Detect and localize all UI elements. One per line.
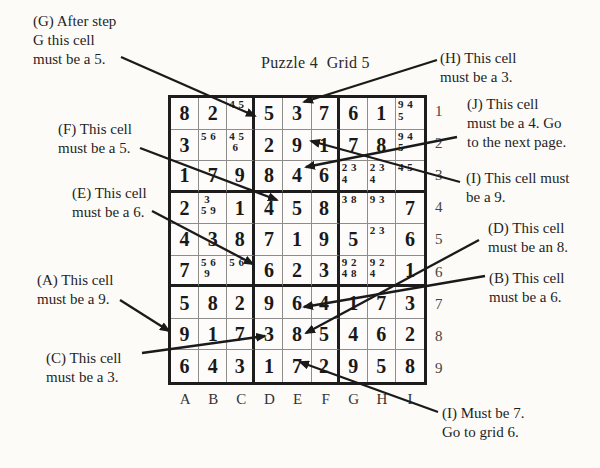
cell-D1: 5 (255, 98, 283, 130)
callout-text-line: (G) After step (33, 12, 116, 31)
callout-text-line: must be a 5. (33, 50, 116, 69)
cell-I8: 2 (396, 319, 424, 351)
cell-E2: 9 (283, 130, 311, 162)
cell-A9: 6 (171, 350, 199, 382)
cell-value: 5 (319, 324, 329, 344)
cell-value: 1 (319, 135, 329, 155)
cell-B1: 2 (199, 98, 227, 130)
cell-D8: 3 (255, 319, 283, 351)
column-label-A: A (171, 391, 199, 409)
cell-value: 2 (319, 356, 329, 376)
callout-b: (B) This cell must be a 6. (489, 269, 565, 307)
cell-value: 3 (180, 135, 190, 155)
cell-value: 7 (292, 356, 302, 376)
row-labels: 123456789 (435, 95, 455, 385)
puzzle-title: Puzzle 4 Grid 5 (261, 54, 370, 72)
callout-text-line: (D) This cell (488, 219, 568, 238)
cell-A8: 9 (171, 319, 199, 351)
cell-A3: 1 (171, 161, 199, 193)
cell-B3: 7 (199, 161, 227, 193)
cell-value: 2 (292, 260, 302, 280)
cell-G7: 1 (340, 287, 368, 319)
callout-i-cell: (I) This cell must be a 9. (466, 169, 569, 207)
cell-value: 8 (376, 135, 386, 155)
cell-C2: 4 5 6 (227, 130, 255, 162)
cell-value: 2 (180, 198, 190, 218)
cell-value: 8 (264, 165, 274, 185)
cell-G5: 5 (340, 224, 368, 256)
callout-text-line: (I) This cell must (466, 169, 569, 188)
row-label-9: 9 (435, 353, 455, 385)
cell-F7: 4 (312, 287, 340, 319)
cell-pencil-marks: 5 6 9 (201, 257, 216, 280)
cell-pencil-marks: 5 6 (229, 257, 244, 269)
row-label-3: 3 (435, 159, 455, 191)
callout-text-line: G this cell (33, 31, 116, 50)
cell-pencil-marks: 2 3 (370, 225, 385, 237)
callout-h: (H) This cell must be a 3. (440, 49, 516, 87)
cell-F3: 6 (312, 161, 340, 193)
cell-F1: 7 (312, 98, 340, 130)
callout-text-line: must be a 6. (489, 288, 565, 307)
cell-pencil-marks: 3 8 (342, 194, 357, 206)
cell-C9: 3 (227, 350, 255, 382)
sudoku-grid: 824 5537619 4 535 64 5 6291789 4 5179846… (168, 95, 427, 385)
cell-value: 3 (235, 356, 245, 376)
cell-B5: 3 (199, 224, 227, 256)
cell-value: 8 (405, 356, 415, 376)
row-label-5: 5 (435, 224, 455, 256)
cell-B8: 1 (199, 319, 227, 351)
callout-text-line: to the next page. (467, 133, 566, 152)
cell-D5: 7 (255, 224, 283, 256)
cell-B6: 5 6 9 (199, 256, 227, 288)
cell-value: 4 (319, 293, 329, 313)
callout-f: (F) This cell must be a 5. (58, 120, 132, 158)
column-label-H: H (368, 391, 396, 409)
cell-value: 7 (264, 229, 274, 249)
cell-value: 4 (264, 198, 274, 218)
cell-H7: 7 (368, 287, 396, 319)
cell-I3: 4 5 (396, 161, 424, 193)
cell-value: 5 (376, 356, 386, 376)
cell-E1: 3 (283, 98, 311, 130)
cell-H5: 2 3 (368, 224, 396, 256)
cell-H2: 8 (368, 130, 396, 162)
cell-E5: 1 (283, 224, 311, 256)
cell-value: 9 (235, 165, 245, 185)
cell-pencil-marks: 2 3 4 (370, 162, 385, 185)
column-label-E: E (283, 391, 311, 409)
cell-value: 1 (264, 356, 274, 376)
cell-pencil-marks: 5 6 (201, 131, 216, 143)
cell-value: 3 (264, 324, 274, 344)
cell-A2: 3 (171, 130, 199, 162)
callout-text-line: (E) This cell (72, 184, 147, 203)
cell-H6: 9 2 4 (368, 256, 396, 288)
cell-value: 6 (180, 356, 190, 376)
cell-D3: 8 (255, 161, 283, 193)
row-label-4: 4 (435, 192, 455, 224)
cell-H8: 6 (368, 319, 396, 351)
cell-value: 6 (348, 103, 358, 123)
cell-H1: 1 (368, 98, 396, 130)
cell-pencil-marks: 3 5 9 (201, 194, 216, 217)
callout-text-line: must be a 3. (46, 368, 122, 387)
callout-text-line: be a 9. (466, 188, 569, 207)
cell-C8: 7 (227, 319, 255, 351)
cell-value: 7 (376, 293, 386, 313)
cell-value: 6 (405, 229, 415, 249)
cell-H3: 2 3 4 (368, 161, 396, 193)
callout-i-grid6: (I) Must be 7. Go to grid 6. (442, 404, 525, 442)
cell-value: 6 (292, 293, 302, 313)
cell-A1: 8 (171, 98, 199, 130)
cell-value: 7 (405, 198, 415, 218)
callout-text-line: must be an 8. (488, 238, 568, 257)
cell-value: 6 (376, 324, 386, 344)
cell-A4: 2 (171, 193, 199, 225)
cell-value: 1 (208, 324, 218, 344)
callout-text-line: (H) This cell (440, 49, 516, 68)
cell-value: 9 (292, 135, 302, 155)
column-label-B: B (199, 391, 227, 409)
callout-text-line: must be a 9. (37, 290, 113, 309)
cell-pencil-marks: 9 4 5 (398, 99, 413, 122)
callout-text-line: (C) This cell (46, 349, 122, 368)
